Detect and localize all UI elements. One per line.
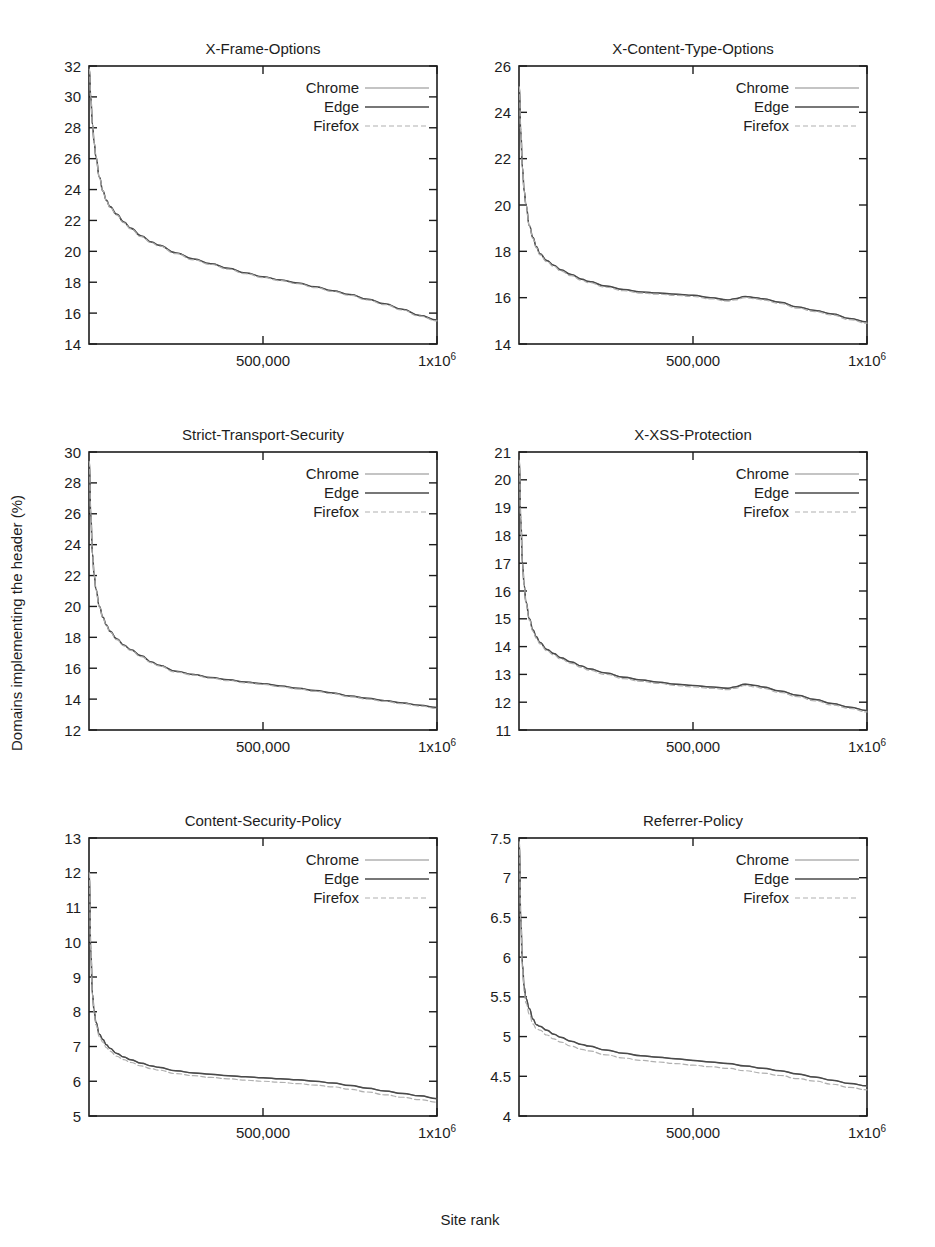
y-tick-label: 7	[503, 869, 511, 886]
y-tick-label: 20	[494, 471, 511, 488]
x-tick-label: 500,000	[666, 1124, 720, 1141]
series-line-chrome	[519, 87, 867, 322]
legend-label-edge: Edge	[324, 870, 359, 887]
legend-label-firefox: Firefox	[743, 889, 789, 906]
y-tick-label: 24	[494, 104, 511, 121]
y-tick-label: 17	[494, 555, 511, 572]
y-tick-label: 22	[64, 212, 81, 229]
panel-title: X-Content-Type-Options	[612, 40, 774, 57]
y-tick-label: 28	[64, 474, 81, 491]
legend-label-firefox: Firefox	[313, 889, 359, 906]
x-tick-label: 500,000	[666, 738, 720, 755]
y-tick-label: 13	[494, 666, 511, 683]
series-line-edge	[519, 460, 867, 710]
x-tick-label: 1x106	[418, 737, 457, 755]
y-tick-label: 6.5	[490, 909, 511, 926]
legend-label-edge: Edge	[754, 98, 789, 115]
chart-panel: Referrer-Policy44.555.566.577.5500,0001x…	[490, 812, 886, 1141]
legend-label-firefox: Firefox	[743, 117, 789, 134]
multi-panel-line-chart-figure: Domains implementing the header (%)Site …	[0, 0, 935, 1247]
legend-label-edge: Edge	[754, 870, 789, 887]
legend-label-chrome: Chrome	[306, 851, 359, 868]
x-tick-label: 1x106	[848, 351, 887, 369]
chart-panel: X-XSS-Protection111213141516171819202150…	[494, 426, 886, 755]
y-tick-label: 5.5	[490, 988, 511, 1005]
y-tick-label: 16	[64, 660, 81, 677]
panel-title: Content-Security-Policy	[185, 812, 342, 829]
y-tick-label: 18	[64, 629, 81, 646]
y-tick-label: 14	[494, 638, 511, 655]
y-tick-label: 20	[64, 243, 81, 260]
y-tick-label: 6	[503, 949, 511, 966]
panel-title: X-Frame-Options	[205, 40, 320, 57]
legend-label-chrome: Chrome	[306, 79, 359, 96]
y-tick-label: 5	[503, 1028, 511, 1045]
y-tick-label: 16	[64, 305, 81, 322]
x-tick-label: 500,000	[666, 352, 720, 369]
series-line-firefox	[519, 87, 867, 323]
legend-label-firefox: Firefox	[743, 503, 789, 520]
legend-label-edge: Edge	[324, 98, 359, 115]
x-tick-label: 1x106	[848, 737, 887, 755]
chart-panel: X-Frame-Options14161820222426283032500,0…	[64, 40, 456, 369]
panel-title: Strict-Transport-Security	[182, 426, 344, 443]
y-tick-label: 20	[64, 598, 81, 615]
y-tick-label: 4.5	[490, 1068, 511, 1085]
y-tick-label: 8	[73, 1003, 81, 1020]
legend-label-chrome: Chrome	[736, 465, 789, 482]
x-tick-label: 500,000	[236, 738, 290, 755]
y-tick-label: 11	[65, 899, 81, 916]
y-tick-label: 18	[494, 243, 511, 260]
x-tick-label: 1x106	[418, 351, 457, 369]
series-line-edge	[519, 87, 867, 322]
chart-panel: Content-Security-Policy5678910111213500,…	[64, 812, 456, 1141]
series-line-chrome	[89, 873, 437, 1099]
x-axis-title: Site rank	[440, 1211, 500, 1228]
y-tick-label: 15	[494, 610, 511, 627]
chart-panel: X-Content-Type-Options14161820222426500,…	[494, 40, 886, 369]
y-tick-label: 26	[64, 505, 81, 522]
y-tick-label: 30	[64, 88, 81, 105]
y-tick-label: 22	[494, 150, 511, 167]
y-tick-label: 18	[494, 527, 511, 544]
series-line-firefox	[89, 873, 437, 1102]
legend-label-edge: Edge	[754, 484, 789, 501]
series-line-firefox	[519, 460, 867, 712]
y-tick-label: 22	[64, 567, 81, 584]
x-tick-label: 500,000	[236, 1124, 290, 1141]
y-tick-label: 14	[494, 336, 511, 353]
y-tick-label: 6	[73, 1073, 81, 1090]
y-tick-label: 24	[64, 536, 81, 553]
y-tick-label: 9	[73, 969, 81, 986]
y-tick-label: 12	[494, 694, 511, 711]
legend-label-chrome: Chrome	[736, 851, 789, 868]
legend-label-edge: Edge	[324, 484, 359, 501]
y-tick-label: 28	[64, 119, 81, 136]
x-tick-label: 1x106	[848, 1123, 887, 1141]
y-axis-title: Domains implementing the header (%)	[8, 495, 25, 751]
y-tick-label: 21	[494, 444, 511, 461]
y-tick-label: 24	[64, 181, 81, 198]
y-tick-label: 14	[64, 691, 81, 708]
y-tick-label: 26	[494, 58, 511, 75]
legend-label-chrome: Chrome	[306, 465, 359, 482]
y-tick-label: 30	[64, 444, 81, 461]
y-tick-label: 18	[64, 274, 81, 291]
y-tick-label: 16	[494, 289, 511, 306]
legend-label-firefox: Firefox	[313, 503, 359, 520]
panel-title: Referrer-Policy	[643, 812, 744, 829]
y-tick-label: 11	[495, 722, 511, 739]
y-tick-label: 12	[64, 722, 81, 739]
y-tick-label: 32	[64, 58, 81, 75]
y-tick-label: 7	[73, 1038, 81, 1055]
y-tick-label: 12	[64, 864, 81, 881]
y-tick-label: 5	[73, 1108, 81, 1125]
series-line-chrome	[89, 461, 437, 707]
legend-label-chrome: Chrome	[736, 79, 789, 96]
y-tick-label: 13	[64, 830, 81, 847]
y-tick-label: 14	[64, 336, 81, 353]
y-tick-label: 19	[494, 499, 511, 516]
y-tick-label: 20	[494, 197, 511, 214]
y-tick-label: 16	[494, 583, 511, 600]
legend-label-firefox: Firefox	[313, 117, 359, 134]
